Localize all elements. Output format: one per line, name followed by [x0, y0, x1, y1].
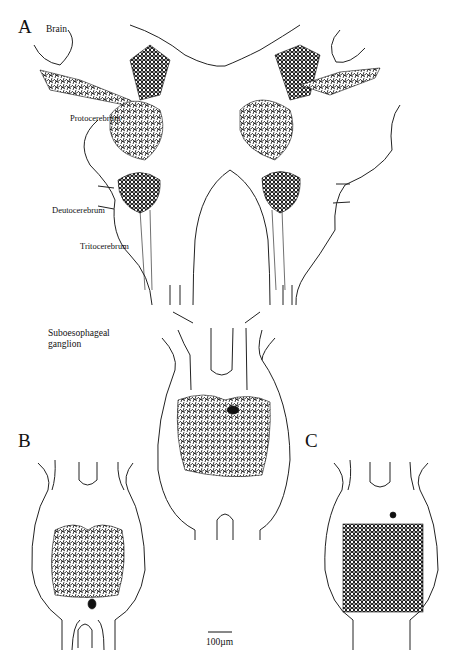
panel-label-b: B: [18, 430, 31, 452]
label-deutocerebrum: Deutocerebrum: [52, 205, 105, 215]
panel-title-brain: Brain: [46, 24, 67, 34]
label-tritocerebrum: Tritocerebrum: [80, 241, 129, 251]
label-suboesophageal-ganglion: Suboesophageal ganglion: [48, 328, 110, 350]
panel-label-a: A: [18, 16, 32, 38]
scale-bar-label: 100µm: [206, 637, 233, 647]
label-protocerebrum: Protocerebrum: [70, 113, 121, 123]
panel-label-c: C: [305, 430, 318, 452]
